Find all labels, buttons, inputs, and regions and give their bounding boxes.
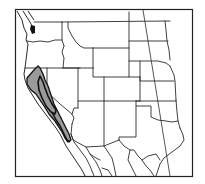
range-map — [0, 0, 205, 184]
